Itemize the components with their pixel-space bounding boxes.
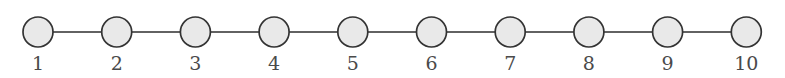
graph-canvas: 12345678910 (0, 0, 785, 78)
graph-node[interactable] (259, 17, 289, 47)
graph-node[interactable] (23, 17, 53, 47)
graph-node[interactable] (417, 17, 447, 47)
node-labels-group: 12345678910 (32, 52, 758, 74)
graph-node-label: 2 (111, 52, 123, 74)
graph-node-label: 9 (662, 52, 674, 74)
graph-node-label: 6 (425, 52, 437, 74)
graph-node-label: 7 (504, 52, 516, 74)
graph-node-label: 5 (347, 52, 359, 74)
graph-node-label: 3 (189, 52, 201, 74)
graph-node-label: 4 (268, 52, 280, 74)
graph-node[interactable] (180, 17, 210, 47)
graph-node[interactable] (495, 17, 525, 47)
graph-node[interactable] (102, 17, 132, 47)
graph-node[interactable] (653, 17, 683, 47)
graph-node-label: 10 (734, 52, 758, 74)
graph-figure: 12345678910 (0, 0, 785, 78)
graph-node[interactable] (731, 17, 761, 47)
graph-node-label: 1 (32, 52, 44, 74)
graph-node-label: 8 (583, 52, 595, 74)
graph-node[interactable] (338, 17, 368, 47)
graph-node[interactable] (574, 17, 604, 47)
